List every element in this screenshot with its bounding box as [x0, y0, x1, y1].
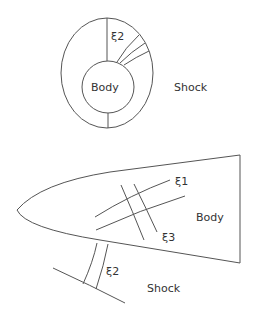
body-outline: [17, 155, 240, 263]
xi3-line-a: [121, 185, 144, 240]
bottom-xi2-label: ξ2: [106, 265, 119, 278]
bottom-shock-label: Shock: [147, 282, 180, 295]
xi3-label: ξ3: [162, 231, 175, 244]
xi1-label: ξ1: [175, 175, 188, 188]
diagram-canvas: ξ2 Body Shock ξ1 Body ξ3 ξ2 Shock: [0, 0, 257, 319]
top-shock-label: Shock: [174, 81, 207, 94]
grid-arc-3: [124, 51, 149, 65]
xi1-line-b: [96, 196, 185, 230]
bottom-body-label: Body: [196, 211, 224, 224]
xi2-line-a: [83, 243, 97, 284]
top-xi2-label: ξ2: [111, 30, 124, 43]
top-body-label: Body: [91, 81, 119, 94]
diagram-lines: [0, 0, 257, 319]
